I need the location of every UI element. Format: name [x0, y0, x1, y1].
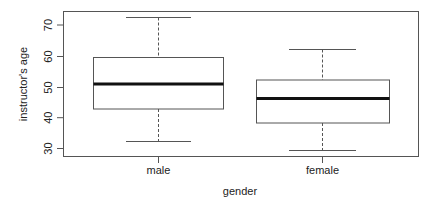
x-tick-label-male: male	[147, 164, 171, 176]
x-tick-label-female: female	[306, 164, 339, 176]
boxplot-chart: 30 40 50 60 70 instructor's age male fem…	[0, 0, 437, 207]
y-tick-label: 50	[42, 81, 54, 93]
box-male	[94, 18, 224, 142]
y-axis-label: instructor's age	[17, 47, 29, 121]
y-tick-label: 40	[42, 112, 54, 124]
y-tick-label: 60	[42, 50, 54, 62]
y-tick-label: 70	[42, 19, 54, 31]
x-axis: male female gender	[147, 157, 339, 197]
y-tick-label: 30	[42, 142, 54, 154]
y-axis: 30 40 50 60 70 instructor's age	[17, 19, 63, 155]
box-female	[257, 50, 390, 151]
x-axis-label: gender	[223, 185, 258, 197]
